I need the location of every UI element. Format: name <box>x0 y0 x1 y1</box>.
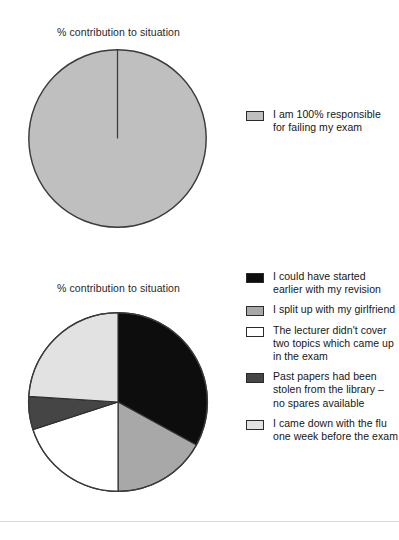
legend-item-label: The lecturer didn't cover two topics whi… <box>273 324 398 364</box>
legend-item[interactable]: I could have started earlier with my rev… <box>246 270 398 296</box>
legend-item-label: I came down with the flu one week before… <box>273 417 398 443</box>
legend-top: I am 100% responsible for failing my exa… <box>246 108 396 141</box>
legend-item[interactable]: I am 100% responsible for failing my exa… <box>246 108 396 134</box>
pie-graphic-bottom <box>26 310 210 494</box>
pie-chart-bottom: % contribution to situation I could have… <box>0 262 399 524</box>
pie-svg-top <box>27 48 208 229</box>
legend-swatch-light-gray <box>246 420 264 430</box>
legend-swatch-dark-gray <box>246 373 264 383</box>
pie-chart-top: % contribution to situation I am 100% re… <box>0 0 399 262</box>
legend-item-label: I split up with my girlfriend <box>273 303 395 316</box>
legend-swatch-black <box>246 273 264 283</box>
legend-item[interactable]: The lecturer didn't cover two topics whi… <box>246 324 398 364</box>
legend-item-label: I am 100% responsible for failing my exa… <box>273 108 396 134</box>
legend-bottom: I could have started earlier with my rev… <box>246 270 398 450</box>
pie-graphic-top <box>27 48 208 229</box>
footer-divider <box>0 521 399 522</box>
legend-item[interactable]: I came down with the flu one week before… <box>246 417 398 443</box>
legend-item-label: I could have started earlier with my rev… <box>273 270 398 296</box>
legend-item[interactable]: I split up with my girlfriend <box>246 303 398 316</box>
legend-item-label: Past papers had been stolen from the lib… <box>273 370 398 410</box>
chart-title-bottom: % contribution to situation <box>57 282 180 295</box>
legend-swatch-gray <box>246 111 264 121</box>
chart-title-top: % contribution to situation <box>57 26 180 39</box>
pie-svg-bottom <box>26 310 210 494</box>
legend-item[interactable]: Past papers had been stolen from the lib… <box>246 370 398 410</box>
legend-swatch-mid-gray <box>246 306 264 316</box>
pie-slice <box>29 313 118 402</box>
legend-swatch-white <box>246 327 264 337</box>
